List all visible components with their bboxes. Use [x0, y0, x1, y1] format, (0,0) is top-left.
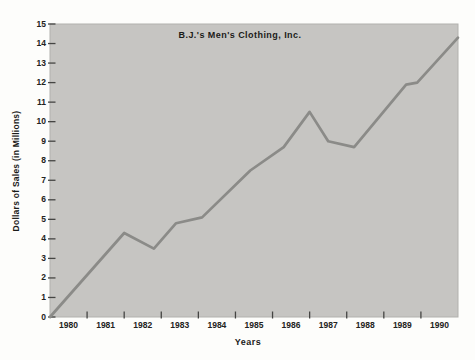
- y-tick-label: 1: [24, 293, 46, 302]
- x-tick-label: 1984: [200, 321, 234, 330]
- y-tick-label: 7: [24, 176, 46, 185]
- y-tick-label: 2: [24, 273, 46, 282]
- y-tick-label: 14: [24, 39, 46, 48]
- chart-svg: [0, 0, 475, 360]
- x-tick-label: 1981: [89, 321, 123, 330]
- x-tick-label: 1987: [311, 321, 345, 330]
- y-tick-label: 3: [24, 254, 46, 263]
- x-tick-label: 1983: [163, 321, 197, 330]
- x-tick-label: 1990: [422, 321, 456, 330]
- y-tick-label: 6: [24, 195, 46, 204]
- y-tick-label: 5: [24, 215, 46, 224]
- x-tick-label: 1982: [126, 321, 160, 330]
- x-tick-label: 1988: [348, 321, 382, 330]
- y-tick-label: 10: [24, 117, 46, 126]
- y-tick-label: 13: [24, 59, 46, 68]
- y-tick-label: 12: [24, 78, 46, 87]
- y-tick-label: 9: [24, 137, 46, 146]
- chart-title: B.J.'s Men's Clothing, Inc.: [36, 30, 444, 40]
- y-tick-label: 11: [24, 98, 46, 107]
- y-tick-label: 0: [24, 313, 46, 322]
- x-tick-label: 1986: [274, 321, 308, 330]
- y-axis-title: Dollars of Sales (in Millions): [11, 111, 21, 232]
- x-tick-label: 1985: [237, 321, 271, 330]
- x-tick-label: 1980: [52, 321, 86, 330]
- x-axis-title: Years: [44, 337, 452, 347]
- x-tick-label: 1989: [385, 321, 419, 330]
- y-tick-label: 15: [24, 20, 46, 29]
- y-tick-label: 4: [24, 234, 46, 243]
- chart-canvas: B.J.'s Men's Clothing, Inc. Dollars of S…: [0, 0, 475, 360]
- y-tick-label: 8: [24, 156, 46, 165]
- plot-area: [50, 24, 458, 317]
